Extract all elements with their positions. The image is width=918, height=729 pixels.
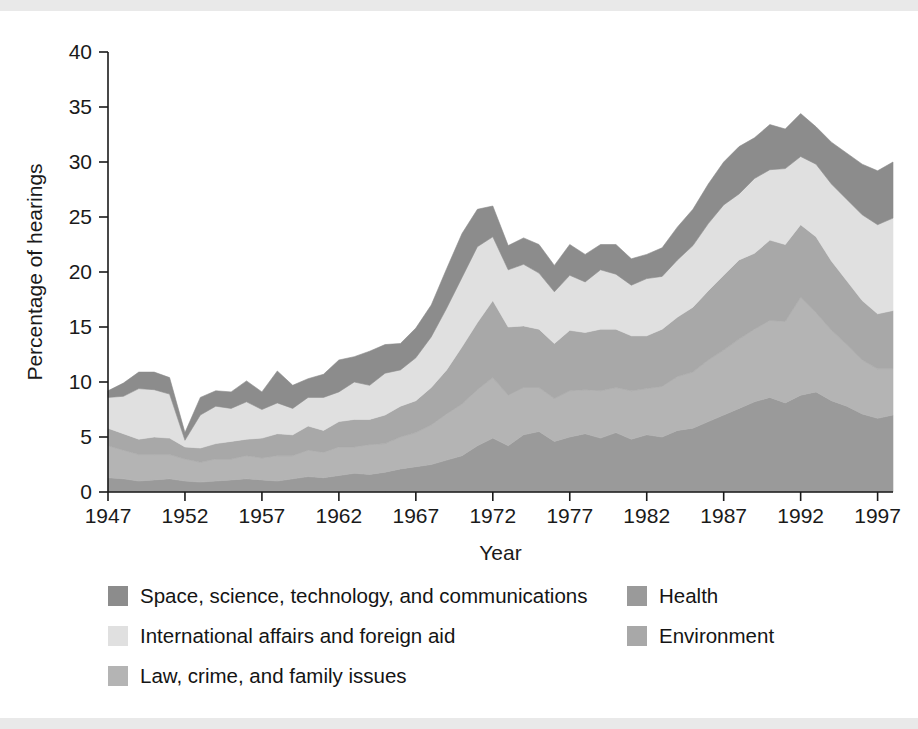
legend-item[interactable]: International affairs and foreign aid [108, 618, 587, 654]
x-axis-tick-label: 1962 [316, 504, 363, 527]
legend-item-label: International affairs and foreign aid [140, 626, 455, 647]
x-axis-tick-label: 1972 [469, 504, 516, 527]
legend-swatch-icon [627, 586, 647, 606]
y-axis-tick-label: 0 [80, 480, 92, 503]
bottom-border-band [0, 718, 918, 729]
y-axis-tick-label: 20 [69, 260, 92, 283]
legend-item[interactable]: Space, science, technology, and communic… [108, 578, 587, 614]
legend-swatch-icon [108, 666, 128, 686]
y-axis-tick-label: 15 [69, 315, 92, 338]
stacked-area-chart: 1947195219571962196719721977198219871992… [0, 0, 918, 560]
x-axis-tick-label: 1987 [700, 504, 747, 527]
area-series-group [108, 114, 893, 492]
figure-container: 1947195219571962196719721977198219871992… [0, 0, 918, 729]
x-axis-tick-labels: 1947195219571962196719721977198219871992… [85, 504, 901, 527]
x-axis-tick-label: 1977 [546, 504, 593, 527]
legend-item-label: Health [659, 586, 718, 607]
legend-swatch-icon [108, 626, 128, 646]
legend-item[interactable]: Health [627, 578, 774, 614]
legend-column-left: Space, science, technology, and communic… [108, 578, 587, 698]
y-axis-tick-label: 10 [69, 370, 92, 393]
y-axis-tick-label: 25 [69, 205, 92, 228]
x-axis-tick-label: 1947 [85, 504, 132, 527]
legend-item-label: Environment [659, 626, 774, 647]
legend-item[interactable]: Environment [627, 618, 774, 654]
y-axis-tick-label: 40 [69, 40, 92, 63]
x-axis-tick-label: 1982 [623, 504, 670, 527]
y-axis-tick-label: 5 [80, 425, 92, 448]
y-axis-tick-labels: 0510152025303540 [69, 40, 92, 503]
y-axis-tick-label: 35 [69, 95, 92, 118]
legend-item-label: Space, science, technology, and communic… [140, 586, 587, 607]
legend-column-right: Health Environment [627, 578, 774, 658]
y-axis-tick-label: 30 [69, 150, 92, 173]
x-axis-title: Year [479, 541, 521, 560]
legend-item-label: Law, crime, and family issues [140, 666, 407, 687]
legend-swatch-icon [108, 586, 128, 606]
x-axis-tick-label: 1957 [239, 504, 286, 527]
y-axis-title: Percentage of hearings [23, 163, 46, 380]
legend-item[interactable]: Law, crime, and family issues [108, 658, 587, 694]
x-axis-tick-label: 1967 [392, 504, 439, 527]
x-axis-tick-label: 1952 [162, 504, 209, 527]
x-axis-tick-label: 1997 [854, 504, 901, 527]
x-axis-tick-label: 1992 [777, 504, 824, 527]
legend-swatch-icon [627, 626, 647, 646]
chart-plot-area: 1947195219571962196719721977198219871992… [0, 0, 918, 560]
